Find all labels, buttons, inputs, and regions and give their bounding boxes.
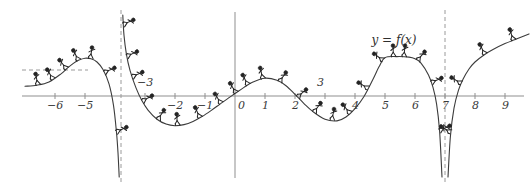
x-tick-label-3: 3	[317, 76, 324, 89]
climber-leg-back-lower	[218, 103, 219, 105]
climber-head	[356, 80, 361, 85]
axes-group	[22, 12, 524, 178]
climber-head	[161, 108, 166, 113]
x-tick-label-6: 6	[412, 99, 419, 112]
climber-figure	[174, 112, 181, 126]
climber-leg-back-lower	[50, 79, 51, 81]
climber-leg-back-lower	[233, 92, 234, 94]
x-tick-label-1: 1	[262, 99, 269, 112]
climber-leg-front	[127, 54, 132, 58]
climber-figure	[88, 45, 95, 58]
x-tick-label-8: 8	[472, 99, 479, 112]
climber-leg-back-lower	[197, 117, 198, 119]
climber-leg-back	[363, 86, 367, 89]
climber-leg-back-lower	[245, 84, 246, 86]
climber-leg-back-lower	[36, 84, 37, 86]
x-tick-label-4: 4	[352, 99, 359, 112]
climber-leg-back-lower	[330, 118, 331, 120]
climber-leg-back-lower	[448, 133, 450, 134]
function-plot-svg	[0, 0, 532, 189]
calculus-graph-figure: y = f(x) −6−5−3−2−10123456789	[0, 0, 532, 189]
climber-figure	[356, 79, 370, 90]
x-tick-label-neg3: −3	[137, 76, 153, 89]
x-tick-label-0: 0	[238, 99, 245, 112]
climber-leg-front	[177, 121, 180, 126]
x-tick-label-2: 2	[292, 99, 299, 112]
function-label: y = f(x)	[372, 33, 417, 47]
x-tick-label-7: 7	[442, 99, 449, 112]
x-tick-label-neg6: −6	[47, 99, 63, 112]
climber-leg-back-lower	[366, 89, 368, 90]
x-tick-label-9: 9	[502, 99, 509, 112]
x-tick-label-neg2: −2	[167, 99, 183, 112]
climber-head	[449, 75, 454, 80]
curve-branch-1	[25, 58, 119, 177]
climber-figure	[507, 27, 517, 41]
climber-leg-back-lower	[156, 117, 157, 119]
climber-leg-front	[404, 52, 407, 57]
climber-figure	[33, 71, 42, 85]
climber-figure	[257, 65, 266, 79]
x-tick-label-neg1: −1	[197, 99, 213, 112]
climber-figures-group	[33, 17, 517, 135]
x-tick-label-5: 5	[382, 99, 389, 112]
climber-figure	[115, 124, 129, 135]
climber-figure	[126, 48, 140, 59]
climber-leg-back	[456, 81, 460, 84]
climber-leg-back-lower	[459, 84, 461, 85]
climber-figure	[122, 17, 136, 28]
climber-figure	[330, 107, 337, 121]
climber-leg-back	[157, 115, 160, 119]
climber-leg-back-lower	[347, 113, 348, 114]
climber-head	[283, 70, 288, 75]
climber-leg-front	[37, 80, 41, 85]
climber-leg-front	[123, 23, 128, 27]
climber-leg-back	[35, 80, 38, 83]
climber-leg-back	[446, 130, 450, 133]
climber-head	[318, 101, 323, 106]
climber-leg-back-lower	[482, 54, 483, 56]
curve-branch-3	[448, 34, 529, 177]
x-tick-label-neg5: −5	[77, 99, 93, 112]
climber-leg-front	[91, 54, 94, 59]
climber-leg-back-lower	[312, 110, 313, 112]
